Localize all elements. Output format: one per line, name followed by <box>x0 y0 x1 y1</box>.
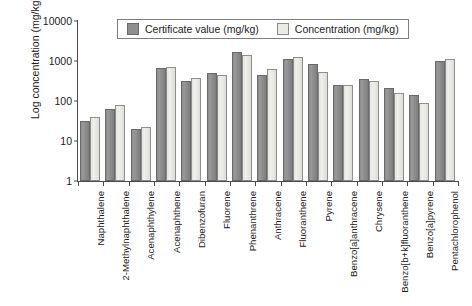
y-tick-label: 10000 <box>43 15 78 27</box>
bar-certificate-value <box>435 61 445 181</box>
bar-certificate-value <box>232 52 242 181</box>
bar-group <box>357 21 382 181</box>
bar-certificate-value <box>283 59 293 181</box>
x-tick-mark <box>255 181 256 186</box>
x-tick-mark <box>78 181 79 186</box>
x-tick-mark <box>407 181 408 186</box>
bar-concentration <box>293 57 303 181</box>
bar-certificate-value <box>131 129 141 181</box>
x-tick-mark <box>129 181 130 186</box>
bar-concentration <box>242 55 252 181</box>
chart-legend: Certificate value (mg/kg) Concentration … <box>117 19 409 39</box>
x-tick-mark <box>306 181 307 186</box>
x-tick-mark <box>205 181 206 186</box>
bar-group <box>205 21 230 181</box>
x-axis-category-label: Benzo[b+k]fluoranthene <box>399 191 410 293</box>
bar-group <box>306 21 331 181</box>
y-axis-title: Log concentration (mg/kg) <box>29 0 41 148</box>
bar-concentration <box>369 81 379 181</box>
x-axis-category-label: Phenanthrene <box>247 191 258 251</box>
bar-group <box>331 21 356 181</box>
bar-groups <box>78 21 458 181</box>
bar-concentration <box>318 72 328 181</box>
x-axis-category-label: Benzo[a]anthracene <box>348 191 359 277</box>
x-tick-mark <box>230 181 231 186</box>
x-tick-mark <box>433 181 434 186</box>
bar-group <box>129 21 154 181</box>
legend-swatch-certificate-value <box>127 23 139 35</box>
bar-group <box>179 21 204 181</box>
bar-concentration <box>267 69 277 181</box>
bar-certificate-value <box>207 73 217 181</box>
bar-group <box>433 21 458 181</box>
bar-certificate-value <box>105 109 115 181</box>
bar-group <box>78 21 103 181</box>
x-axis-category-label: Benzo[a]pyrene <box>424 191 435 258</box>
bar-concentration <box>217 75 227 182</box>
chart-figure: Log concentration (mg/kg) 10000100010010… <box>0 0 472 306</box>
x-axis-category-label: 2-Methylnaphthalene <box>120 191 131 281</box>
bar-certificate-value <box>80 121 90 181</box>
legend-swatch-concentration <box>277 23 289 35</box>
bar-concentration <box>166 67 176 181</box>
x-axis-category-label: Dibenzofuran <box>196 191 207 248</box>
x-axis-category-label: Pyrene <box>323 191 334 221</box>
legend-item-concentration: Concentration (mg/kg) <box>277 23 399 35</box>
bar-certificate-value <box>333 85 343 181</box>
bar-concentration <box>394 93 404 181</box>
x-axis-category-label: Pentachlorophenol <box>449 191 460 271</box>
x-tick-mark <box>179 181 180 186</box>
bar-certificate-value <box>384 88 394 181</box>
bar-concentration <box>115 105 125 181</box>
x-tick-mark <box>281 181 282 186</box>
plot-area: 100001000100101 <box>78 21 458 181</box>
bar-certificate-value <box>409 95 419 181</box>
x-tick-mark <box>458 181 459 186</box>
bar-group <box>255 21 280 181</box>
bar-concentration <box>419 103 429 181</box>
bar-concentration <box>191 78 201 181</box>
legend-label-certificate-value: Certificate value (mg/kg) <box>145 23 259 35</box>
bar-group <box>407 21 432 181</box>
bar-group <box>154 21 179 181</box>
x-axis-category-label: Acenaphthylene <box>145 191 156 260</box>
x-tick-mark <box>154 181 155 186</box>
bar-certificate-value <box>181 81 191 181</box>
bar-certificate-value <box>156 68 166 181</box>
bar-certificate-value <box>257 75 267 181</box>
bar-certificate-value <box>308 64 318 181</box>
x-axis-category-label: Chrysene <box>373 191 384 232</box>
bar-concentration <box>445 59 455 181</box>
x-axis-category-label: Anthracene <box>272 191 283 240</box>
x-axis-category-label: Acenaphthene <box>171 191 182 253</box>
bar-group <box>382 21 407 181</box>
x-axis-line <box>77 181 459 182</box>
bar-certificate-value <box>359 79 369 181</box>
x-tick-mark <box>331 181 332 186</box>
x-axis-category-label: Naphthalene <box>95 191 106 245</box>
x-axis-category-label: Fluoranthene <box>297 191 308 248</box>
x-tick-mark <box>382 181 383 186</box>
x-tick-mark <box>103 181 104 186</box>
x-tick-mark <box>357 181 358 186</box>
legend-item-certificate-value: Certificate value (mg/kg) <box>127 23 259 35</box>
bar-group <box>103 21 128 181</box>
bar-concentration <box>141 127 151 181</box>
bar-concentration <box>90 117 100 182</box>
bar-concentration <box>343 85 353 181</box>
bar-group <box>230 21 255 181</box>
x-axis-category-label: Fluorene <box>221 191 232 229</box>
bar-group <box>281 21 306 181</box>
legend-label-concentration: Concentration (mg/kg) <box>295 23 399 35</box>
